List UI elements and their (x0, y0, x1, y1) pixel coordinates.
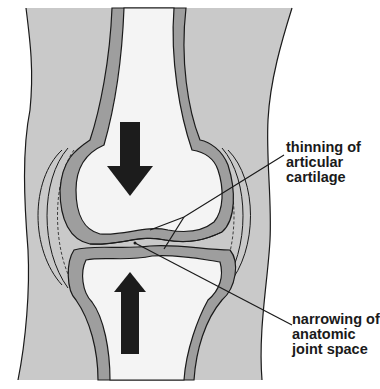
annotation-line: joint space (292, 342, 380, 357)
annotation-line: thinning of (286, 140, 361, 155)
annotation-line: cartilage (286, 170, 361, 185)
annotation-line: anatomic (292, 327, 380, 342)
annotation-line: articular (286, 155, 361, 170)
annotation-narrowing-of-joint-space: narrowing of anatomic joint space (292, 312, 380, 357)
annotation-line: narrowing of (292, 312, 380, 327)
annotation-thinning-of-articular-cartilage: thinning of articular cartilage (286, 140, 361, 185)
